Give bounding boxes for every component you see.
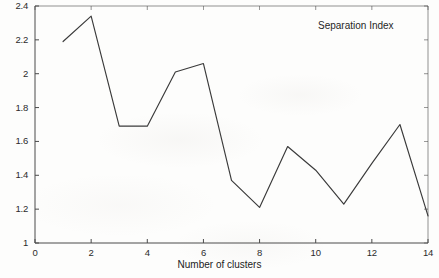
series-annotation-label: Separation Index	[318, 20, 394, 31]
y-tick-label: 1.8	[0, 102, 28, 113]
x-tick-label: 0	[21, 247, 49, 258]
y-tick-label: 2.4	[0, 0, 28, 11]
x-tick-label: 10	[302, 247, 330, 258]
x-tick-label: 12	[358, 247, 386, 258]
y-tick-label: 1.2	[0, 203, 28, 214]
figure-canvas: 11.21.41.61.822.22.4 02468101214 Separat…	[0, 0, 439, 278]
x-tick-label: 4	[133, 247, 161, 258]
axes-frame	[35, 6, 428, 243]
x-tick-label: 14	[414, 247, 439, 258]
axis-ticks	[35, 6, 428, 243]
y-tick-label: 2.2	[0, 34, 28, 45]
y-tick-label: 1.6	[0, 135, 28, 146]
x-tick-label: 8	[246, 247, 274, 258]
line-chart-plot	[0, 0, 439, 278]
data-series-lines	[63, 16, 428, 216]
x-tick-label: 6	[189, 247, 217, 258]
y-tick-label: 2	[0, 68, 28, 79]
x-tick-label: 2	[77, 247, 105, 258]
x-axis-title: Number of clusters	[0, 259, 439, 270]
y-tick-label: 1.4	[0, 169, 28, 180]
